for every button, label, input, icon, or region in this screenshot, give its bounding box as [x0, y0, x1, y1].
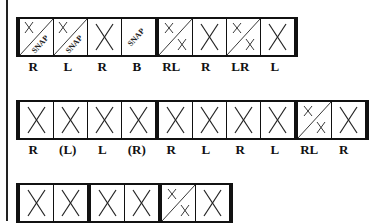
- hand-labels-row-2: R(L)L(R)RLRLRLR: [16, 142, 361, 158]
- beat-box-x-snap: SNAP: [16, 17, 54, 57]
- hand-label: R: [327, 142, 362, 158]
- beat-box-split-xx: [298, 100, 332, 140]
- x-mark-icon: [91, 185, 124, 221]
- beat-box-x: [125, 183, 162, 223]
- beat-box-x: [332, 100, 369, 140]
- split-x-icon: [159, 19, 192, 55]
- beat-box-x: [159, 100, 193, 140]
- hand-labels-row-1: RLRBRLRLRL: [16, 59, 292, 75]
- hand-label: R: [16, 142, 51, 158]
- split-x-icon: [227, 19, 260, 55]
- beat-box-x: [88, 17, 122, 57]
- hand-label: R: [223, 142, 258, 158]
- x-mark-icon: [159, 102, 192, 138]
- hand-label: L: [85, 142, 120, 158]
- pattern-row-1: SNAPSNAPSNAP: [16, 17, 298, 57]
- beat-box-x: [193, 17, 227, 57]
- x-mark-icon: [88, 19, 121, 55]
- beat-box-x: [227, 100, 261, 140]
- split-x-icon: SNAP: [20, 19, 53, 55]
- hand-label: L: [189, 142, 224, 158]
- beat-box-x: [54, 183, 91, 223]
- beat-box-split-xx: [227, 17, 261, 57]
- hand-label: RL: [154, 59, 189, 75]
- x-mark-icon: [196, 185, 229, 221]
- x-mark-icon: [122, 102, 155, 138]
- hand-label: R: [85, 59, 120, 75]
- hand-label: R: [16, 59, 51, 75]
- split-x-icon: [162, 185, 195, 221]
- x-mark-icon: [227, 102, 260, 138]
- svg-text:SNAP: SNAP: [126, 26, 147, 48]
- split-x-icon: SNAP: [54, 19, 87, 55]
- hand-label: R: [189, 59, 224, 75]
- beat-box-x: [16, 183, 54, 223]
- x-mark-icon: [88, 102, 121, 138]
- svg-text:SNAP: SNAP: [64, 33, 85, 55]
- beat-box-x: [16, 100, 54, 140]
- x-mark-icon: [193, 19, 226, 55]
- snap-icon: SNAP: [122, 19, 155, 55]
- beat-box-x: [91, 183, 125, 223]
- x-mark-icon: [20, 102, 53, 138]
- hand-label: RL: [292, 142, 327, 158]
- x-mark-icon: [54, 185, 87, 221]
- split-x-icon: [298, 102, 331, 138]
- beat-box-x: [193, 100, 227, 140]
- hand-label: (L): [51, 142, 86, 158]
- hand-label: L: [51, 59, 86, 75]
- hand-label: R: [154, 142, 189, 158]
- pattern-row-3: [16, 183, 233, 223]
- left-margin-rule: [6, 0, 8, 221]
- beat-box-snap: SNAP: [122, 17, 159, 57]
- beat-box-x: [261, 17, 298, 57]
- x-mark-icon: [125, 185, 158, 221]
- beat-box-x: [54, 100, 88, 140]
- hand-label: L: [258, 59, 293, 75]
- x-mark-icon: [261, 19, 294, 55]
- hand-label: (R): [120, 142, 155, 158]
- x-mark-icon: [20, 185, 53, 221]
- beat-box-x-snap: SNAP: [54, 17, 88, 57]
- hand-label: LR: [223, 59, 258, 75]
- beat-box-x: [88, 100, 122, 140]
- x-mark-icon: [193, 102, 226, 138]
- x-mark-icon: [332, 102, 365, 138]
- svg-text:SNAP: SNAP: [30, 33, 51, 55]
- hand-label: B: [120, 59, 155, 75]
- beat-box-split-xx: [159, 17, 193, 57]
- beat-box-x: [261, 100, 298, 140]
- pattern-row-2: [16, 100, 369, 140]
- beat-box-x: [122, 100, 159, 140]
- x-mark-icon: [54, 102, 87, 138]
- beat-box-x: [196, 183, 233, 223]
- beat-box-split-xx: [162, 183, 196, 223]
- hand-label: L: [258, 142, 293, 158]
- x-mark-icon: [261, 102, 294, 138]
